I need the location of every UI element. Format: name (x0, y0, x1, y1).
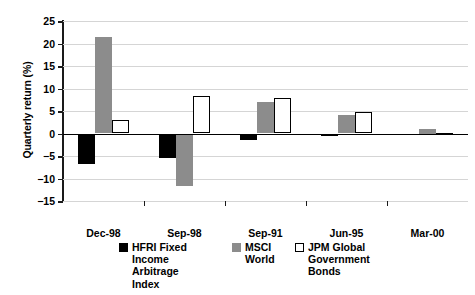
legend-label: JPM Global Government Bonds (308, 241, 370, 278)
y-tick-mark (58, 66, 63, 68)
x-tick-label-sep-91: Sep-91 (248, 227, 282, 239)
x-tick-mark (387, 201, 388, 206)
y-tick-mark (58, 111, 63, 113)
legend-swatch-icon (295, 243, 304, 252)
bar (78, 134, 95, 165)
legend-item[interactable]: HFRI Fixed Income Arbitrage Index (119, 241, 217, 290)
y-tick-mark (58, 89, 63, 91)
y-tick-label: 10 (43, 83, 55, 95)
y-tick-mark (58, 201, 63, 203)
x-tick-label-dec-98: Dec-98 (86, 227, 120, 239)
legend-swatch-icon (232, 243, 241, 252)
gridline (63, 66, 468, 67)
gridline (63, 89, 468, 90)
y-tick-label: 15 (43, 60, 55, 72)
gridline (63, 156, 468, 157)
y-tick-mark (58, 156, 63, 158)
y-tick-label: 0 (49, 128, 55, 140)
legend-label: MSCI World (245, 241, 275, 265)
bar (193, 96, 210, 133)
gridline (63, 201, 468, 202)
gridline (63, 44, 468, 45)
y-tick-label: 5 (49, 105, 55, 117)
legend-item[interactable]: JPM Global Government Bonds (295, 241, 395, 278)
x-tick-mark (225, 201, 226, 206)
bar (159, 134, 176, 159)
bar (338, 115, 355, 133)
zero-line (63, 134, 468, 136)
chart-figure: Quarterly return (%) 2520151050−5−10−15 … (0, 0, 475, 295)
x-tick-label-mar-00: Mar-00 (411, 227, 445, 239)
bar (112, 120, 129, 134)
y-tick-label: −15 (37, 195, 55, 207)
gridline (63, 179, 468, 180)
gridline (63, 21, 468, 22)
legend-item[interactable]: MSCI World (232, 241, 280, 265)
bar (355, 112, 372, 134)
bar (274, 98, 291, 133)
y-tick-mark (58, 179, 63, 181)
y-tick-label: −10 (37, 173, 55, 185)
plot-area: 2520151050−5−10−15 Dec-98Sep-98Sep-91Jun… (63, 21, 468, 201)
legend-swatch-icon (119, 243, 128, 252)
y-tick-label: −5 (43, 150, 55, 162)
y-tick-label: 25 (43, 15, 55, 27)
y-tick-mark (58, 21, 63, 23)
y-tick-label: 20 (43, 38, 55, 50)
y-axis-title: Quarterly return (%) (21, 30, 33, 190)
y-tick-mark (58, 44, 63, 46)
x-tick-mark (144, 201, 145, 206)
legend-label: HFRI Fixed Income Arbitrage Index (132, 241, 217, 290)
bar (95, 37, 112, 133)
x-tick-label-sep-98: Sep-98 (167, 227, 201, 239)
x-tick-mark (306, 201, 307, 206)
bar (176, 134, 193, 186)
bar (257, 102, 274, 134)
x-tick-label-jun-95: Jun-95 (330, 227, 364, 239)
chart-legend: HFRI Fixed Income Arbitrage IndexMSCI Wo… (119, 241, 410, 290)
